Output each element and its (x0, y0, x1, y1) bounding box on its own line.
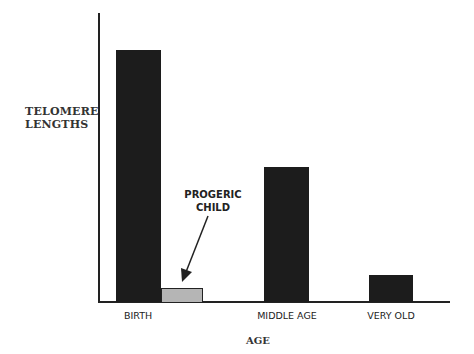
annotation-arrow-icon (0, 0, 474, 354)
telomere-bar-chart: TELOMERE LENGTHS BIRTH MIDDLE AGE VERY O… (0, 0, 474, 354)
